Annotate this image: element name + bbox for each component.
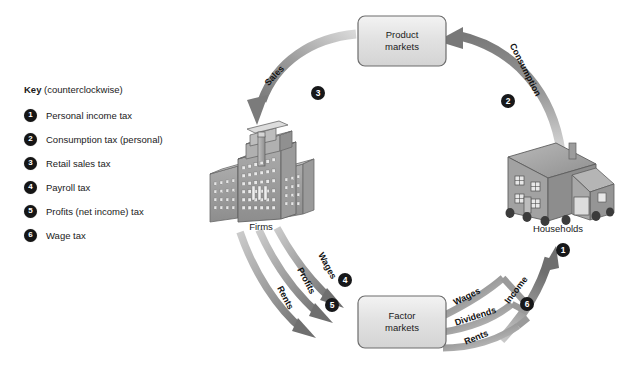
key-label-4: Payroll tax xyxy=(46,182,90,193)
flow-arrow-profits-firms xyxy=(259,230,333,323)
flow-badge-income-6: 6 xyxy=(520,297,534,311)
key-heading-bold: Key xyxy=(24,84,41,95)
key-item-5: 5 Profits (net income) tax xyxy=(24,200,224,222)
key-badge-6: 6 xyxy=(24,229,37,242)
key-item-3: 3 Retail sales tax xyxy=(24,152,224,174)
households-house-illustration xyxy=(506,143,615,226)
key-item-4: 4 Payroll tax xyxy=(24,176,224,198)
households-caption: Households xyxy=(508,223,608,234)
key-item-2: 2 Consumption tax (personal) xyxy=(24,128,224,150)
flow-badge-personal-income-1: 1 xyxy=(556,243,570,257)
flow-badge-consumption-2: 2 xyxy=(501,94,515,108)
key-legend: Key (counterclockwise) 1 Personal income… xyxy=(24,84,224,248)
circular-flow-diagram: Key (counterclockwise) 1 Personal income… xyxy=(0,0,623,371)
key-heading: Key (counterclockwise) xyxy=(24,84,224,96)
firms-building-illustration xyxy=(210,121,314,222)
flow-badge-wages-4: 4 xyxy=(338,273,352,287)
firms-caption: Firms xyxy=(231,221,291,232)
key-label-6: Wage tax xyxy=(46,230,86,241)
key-badge-1: 1 xyxy=(24,109,37,122)
key-label-5: Profits (net income) tax xyxy=(46,206,144,217)
key-item-1: 1 Personal income tax xyxy=(24,104,224,126)
flow-badge-sales-3: 3 xyxy=(311,86,325,100)
key-badge-2: 2 xyxy=(24,133,37,146)
key-label-2: Consumption tax (personal) xyxy=(46,134,163,145)
node-product-markets[interactable] xyxy=(358,16,446,66)
key-badge-3: 3 xyxy=(24,157,37,170)
key-item-6: 6 Wage tax xyxy=(24,224,224,246)
key-heading-rest: (counterclockwise) xyxy=(44,84,123,95)
key-label-1: Personal income tax xyxy=(46,110,132,121)
key-badge-4: 4 xyxy=(24,181,37,194)
flow-badge-profits-5: 5 xyxy=(325,298,339,312)
node-factor-markets[interactable] xyxy=(358,296,446,348)
key-badge-5: 5 xyxy=(24,205,37,218)
flow-arc-consumption xyxy=(437,27,561,152)
key-label-3: Retail sales tax xyxy=(46,158,110,169)
